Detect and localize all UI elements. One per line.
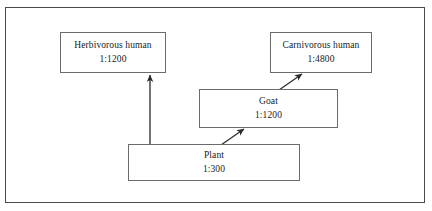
diagram-page: Herbivorous human 1:1200 Carnivorous hum… bbox=[0, 0, 432, 211]
node-goat: Goat 1:1200 bbox=[199, 89, 338, 128]
node-goat-label: Goat bbox=[259, 95, 278, 109]
node-plant-ratio: 1:300 bbox=[203, 163, 225, 177]
node-plant: Plant 1:300 bbox=[128, 144, 300, 181]
node-carnivorous-human: Carnivorous human 1:4800 bbox=[270, 32, 372, 73]
node-herbivorous-human-ratio: 1:1200 bbox=[100, 53, 127, 67]
node-plant-label: Plant bbox=[204, 149, 224, 163]
node-herbivorous-human: Herbivorous human 1:1200 bbox=[60, 32, 166, 73]
node-herbivorous-human-label: Herbivorous human bbox=[74, 39, 151, 53]
node-carnivorous-human-label: Carnivorous human bbox=[283, 39, 360, 53]
node-goat-ratio: 1:1200 bbox=[255, 109, 282, 123]
node-carnivorous-human-ratio: 1:4800 bbox=[308, 53, 335, 67]
